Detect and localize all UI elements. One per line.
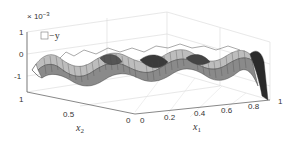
x1-tick-0.8: 0.8 [248,102,260,111]
legend: −y [41,30,60,41]
x1-tick-0.4: 0.4 [194,109,206,118]
x1-tick-0.6: 0.6 [221,106,233,115]
x2-tick-0: 0 [126,116,131,125]
x1-tick-0: 0 [140,116,145,125]
x1-tick-0.2: 0.2 [164,113,176,122]
x2-axis-label: x2 [75,122,84,135]
legend-square-icon [41,32,48,39]
x1-tick-1: 1 [278,97,283,106]
surface-plot: × 10−3 1 0 -1 1 0.5 0 0 0.2 0.4 0.6 0.8 … [0,0,295,143]
surface-mesh [32,44,268,100]
x2-tick-0.5: 0.5 [63,110,75,119]
z-tick-minus1: -1 [14,72,22,81]
legend-label: −y [49,30,60,41]
z-multiplier: × 10−3 [27,11,50,21]
x1-axis-label: x1 [192,121,201,134]
x2-tick-1: 1 [19,95,24,104]
z-tick-1: 1 [19,28,24,37]
z-tick-0: 0 [19,50,24,59]
